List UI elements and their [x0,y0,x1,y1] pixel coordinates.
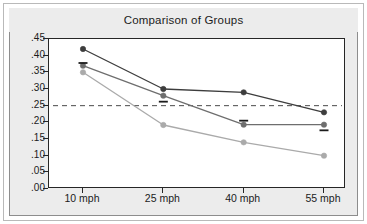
y-axis-labels: .45.40.35.30.25.20.15.10.05.00 [14,38,45,188]
data-point [241,140,246,145]
y-tick-mark [43,71,48,72]
y-tick-mark [43,171,48,172]
series-line-2 [83,66,324,125]
data-point [241,90,246,95]
x-tick-label: 25 mph [145,192,180,204]
y-tick-mark [43,155,48,156]
data-point [321,122,326,127]
y-tick-mark [43,121,48,122]
series-line-1 [83,49,324,112]
data-point [161,86,166,91]
y-tick-mark [43,188,48,189]
plot-inner [49,39,344,187]
x-tick-mark [82,188,83,193]
y-tick-mark [43,105,48,106]
chart-title: Comparison of Groups [124,14,244,26]
data-point [161,122,166,127]
chart-figure: Comparison of Groups .45.40.35.30.25.20.… [0,0,367,224]
series-line-3 [83,72,324,155]
y-tick-mark [43,88,48,89]
plot-area [48,38,345,188]
x-tick-label: 10 mph [64,192,99,204]
plot-svg [49,39,346,189]
data-point [161,93,166,98]
data-point [80,70,85,75]
x-axis-labels: 10 mph25 mph40 mph55 mph [48,192,345,210]
y-tick-mark [43,38,48,39]
data-point [80,46,85,51]
data-point [321,110,326,115]
x-tick-mark [162,188,163,193]
x-tick-mark [243,188,244,193]
y-tick-mark [43,55,48,56]
x-tick-label: 40 mph [225,192,260,204]
chart-title-strip: Comparison of Groups [9,8,358,32]
data-point [321,153,326,158]
x-tick-mark [323,188,324,193]
x-tick-label: 55 mph [305,192,340,204]
data-point [241,122,246,127]
y-tick-mark [43,138,48,139]
